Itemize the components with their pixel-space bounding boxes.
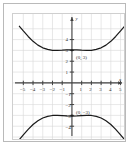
x-tick-label: −2 [50, 87, 55, 92]
hyperbola-graph-figure: y x (0, 3) (0, −3) −5−4−3−2−1123454321−1… [0, 0, 129, 145]
upper-vertex-label: (0, 3) [76, 55, 87, 60]
lower-vertex-label: (0, −3) [76, 110, 90, 115]
x-tick-label: −1 [60, 87, 65, 92]
x-tick-label: −4 [30, 87, 35, 92]
x-tick-label: 1 [79, 87, 82, 92]
y-tick-label: 2 [66, 59, 69, 64]
x-tick-label: 4 [109, 87, 112, 92]
y-tick-label: −4 [66, 125, 71, 130]
y-tick-label: 1 [66, 70, 69, 75]
y-tick-label: 4 [66, 37, 69, 42]
x-tick-label: 2 [89, 87, 92, 92]
coordinate-plane: y x (0, 3) (0, −3) −5−4−3−2−1123454321−1… [12, 13, 125, 140]
x-tick-label: 3 [99, 87, 102, 92]
y-tick-label: −1 [66, 92, 71, 97]
y-tick-label: −3 [66, 114, 71, 119]
x-tick-label: −3 [40, 87, 45, 92]
y-tick-label: 3 [66, 48, 69, 53]
y-tick-label: −2 [66, 103, 71, 108]
y-axis-label: y [76, 16, 78, 21]
x-tick-label: −5 [20, 87, 25, 92]
figure-frame: y x (0, 3) (0, −3) −5−4−3−2−1123454321−1… [3, 3, 126, 142]
x-axis-label: x [119, 77, 121, 82]
x-tick-label: 5 [119, 87, 122, 92]
hyperbola-curves [13, 14, 124, 139]
